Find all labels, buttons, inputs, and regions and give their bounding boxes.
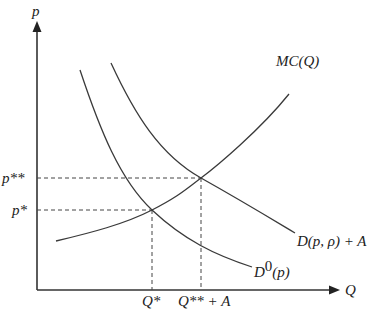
curve-label-mc: MC(Q) xyxy=(275,53,319,70)
quantity-label-q-star: Q* xyxy=(142,293,161,309)
quantity-label-q-double-star-plus-a: Q** + A xyxy=(178,293,231,309)
demand-curve-d0 xyxy=(80,70,252,267)
y-axis-label: p xyxy=(31,3,40,19)
y-axis xyxy=(33,21,42,290)
x-axis-arrow-icon xyxy=(329,286,340,295)
d0-argument: (p) xyxy=(272,264,290,281)
d0-superscript: 0 xyxy=(265,258,273,274)
diagram-canvas: p Q p** p* Q* Q** + A MC(Q) D(p, ρ) + A … xyxy=(0,0,377,317)
price-label-p-star: p* xyxy=(11,202,28,218)
demand-curve-shifted xyxy=(111,63,295,233)
x-axis-label: Q xyxy=(345,282,356,298)
price-label-p-double-star: p** xyxy=(1,170,25,186)
marginal-cost-curve xyxy=(56,94,289,241)
d0-base: D xyxy=(253,264,265,280)
curve-label-demand-shifted: D(p, ρ) + A xyxy=(296,233,367,250)
curve-label-d0: D0(p) xyxy=(253,258,290,281)
guide-lines xyxy=(37,178,201,290)
y-axis-arrow-icon xyxy=(33,21,42,32)
